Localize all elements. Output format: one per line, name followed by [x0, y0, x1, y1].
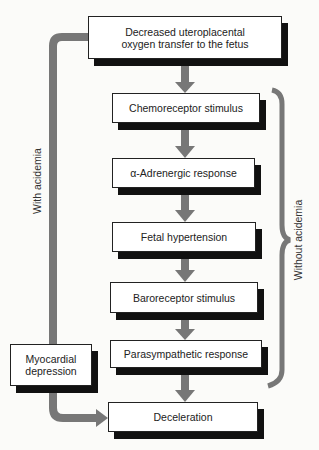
node-top-line1: Decreased uteroplacental: [125, 26, 245, 38]
myocardial-to-deceleration-path: [53, 392, 96, 418]
down-arrow-5: [175, 320, 195, 340]
node-parasympathetic-response: Parasympathetic response: [110, 340, 262, 368]
node-decreased-oxygen-transfer: Decreased uteroplacental oxygen transfer…: [88, 16, 282, 59]
down-arrow-6: [175, 375, 195, 402]
node-chemoreceptor-stimulus: Chemoreceptor stimulus: [112, 93, 260, 123]
down-arrow-3: [175, 195, 195, 222]
arrowhead-deceleration-left: [96, 409, 108, 427]
down-arrow-1: [175, 66, 195, 93]
label-without-acidemia: Without acidemia: [292, 198, 304, 283]
label-with-acidemia: With acidemia: [31, 146, 43, 216]
down-arrow-4: [175, 259, 195, 282]
down-arrow-2: [175, 130, 195, 158]
node-deceleration: Deceleration: [108, 402, 258, 432]
node-myocardial-depression: Myocardial depression: [10, 344, 92, 386]
node-parasympathetic-label: Parasympathetic response: [124, 348, 248, 360]
node-fetal-hypertension: Fetal hypertension: [112, 222, 256, 252]
node-hypertension-label: Fetal hypertension: [141, 231, 227, 243]
without-acidemia-brace: [268, 90, 290, 386]
node-alpha-adrenergic-response: α-Adrenergic response: [112, 158, 255, 188]
node-deceleration-label: Deceleration: [154, 411, 213, 423]
node-chemoreceptor-label: Chemoreceptor stimulus: [129, 102, 243, 114]
node-baroreceptor-label: Baroreceptor stimulus: [133, 292, 235, 304]
node-baroreceptor-stimulus: Baroreceptor stimulus: [110, 282, 258, 313]
node-myocardial-line2: depression: [25, 365, 76, 377]
with-acidemia-path: [53, 37, 88, 344]
node-myocardial-line1: Myocardial: [26, 353, 77, 365]
node-top-line2: oxygen transfer to the fetus: [121, 38, 248, 50]
node-adrenergic-label: α-Adrenergic response: [130, 167, 236, 179]
